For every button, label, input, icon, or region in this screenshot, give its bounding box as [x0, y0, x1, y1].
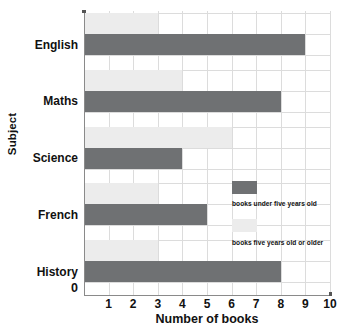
cropped-title-remnant [60, 0, 240, 2]
x-tick-8: 8 [269, 297, 293, 311]
x-tick-1: 1 [97, 297, 121, 311]
bar-light-science [84, 127, 232, 148]
category-label-english: English [0, 38, 78, 52]
legend-swatch-books-five-or-older [232, 219, 257, 232]
bar-light-maths [84, 70, 182, 91]
x-tick-9: 9 [293, 297, 317, 311]
y-axis-line [84, 11, 85, 296]
x-tick-2: 2 [121, 297, 145, 311]
x-tick-5: 5 [195, 297, 219, 311]
bar-dark-science [84, 148, 182, 169]
plot-area: books under five years old books five ye… [84, 11, 330, 295]
origin-label: 0 [0, 281, 78, 295]
bar-chart: Subject Number of books books under five… [0, 0, 343, 334]
bar-light-history [84, 240, 158, 261]
x-tick-3: 3 [146, 297, 170, 311]
gridline-horizontal [84, 55, 330, 56]
x-tick-6: 6 [220, 297, 244, 311]
x-tick-10: 10 [318, 297, 342, 311]
bar-light-french [84, 183, 158, 204]
bar-dark-french [84, 204, 207, 225]
bar-dark-english [84, 34, 305, 55]
legend-label-books-under-five: books under five years old [232, 200, 317, 207]
gridline-horizontal [84, 112, 330, 113]
category-label-french: French [0, 208, 78, 222]
gridline-horizontal [84, 225, 330, 226]
bar-dark-history [84, 261, 281, 282]
gridline-horizontal [84, 282, 330, 283]
x-axis-line [84, 295, 331, 296]
x-axis-title: Number of books [84, 312, 330, 326]
gridline-vertical [305, 11, 306, 295]
legend-label-books-five-or-older: books five years old or older [232, 239, 323, 246]
bar-light-english [84, 13, 158, 34]
legend-swatch-books-under-five [232, 181, 257, 194]
x-tick-7: 7 [244, 297, 268, 311]
category-label-science: Science [0, 151, 78, 165]
gridline-horizontal [84, 169, 330, 170]
x-tick-4: 4 [170, 297, 194, 311]
bar-dark-maths [84, 91, 281, 112]
category-label-maths: Maths [0, 94, 78, 108]
gridline-vertical [330, 11, 331, 295]
category-label-history: History [0, 265, 78, 279]
y-axis-cap [82, 10, 86, 13]
x-axis-cap [329, 292, 332, 296]
